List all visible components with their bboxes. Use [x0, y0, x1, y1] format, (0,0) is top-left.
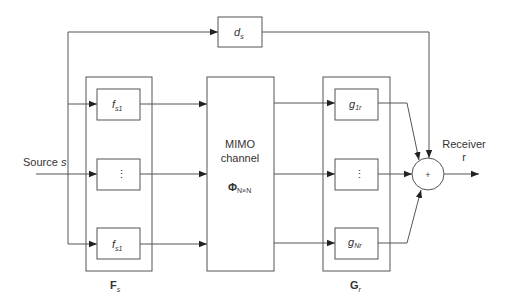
- summer-symbol: +: [425, 170, 430, 180]
- delay-label: ds: [234, 26, 244, 40]
- receiver-symbol: r: [462, 151, 466, 163]
- combiner-group-label: Gr: [350, 279, 362, 293]
- combiner-to-summer-1: [378, 103, 419, 160]
- combiner-to-summer-3: [378, 190, 421, 243]
- precoder-label-2: ⋮: [116, 168, 127, 180]
- source-label: Source s: [23, 156, 67, 168]
- delay-output-line: [262, 32, 429, 158]
- combiner-label-3: gNr: [348, 236, 362, 249]
- precoder-block-3: [97, 228, 140, 259]
- channel-title-line1: MIMO: [225, 138, 255, 150]
- precoder-group-label: Fs: [110, 279, 121, 293]
- combiner-label-1: g1r: [349, 98, 362, 111]
- precoder-label-1: fs1: [112, 98, 123, 112]
- combiner-label-2: ⋮: [354, 168, 365, 180]
- receiver-label: Receiver: [442, 138, 486, 150]
- channel-block: [207, 77, 274, 271]
- mimo-block-diagram: Source s ds fs1 ⋮ fs1 Fs MIMO channel ΦN…: [0, 0, 505, 303]
- channel-matrix-label: ΦN×N: [228, 181, 251, 194]
- precoder-label-3: fs1: [112, 238, 123, 252]
- channel-title-line2: channel: [221, 152, 260, 164]
